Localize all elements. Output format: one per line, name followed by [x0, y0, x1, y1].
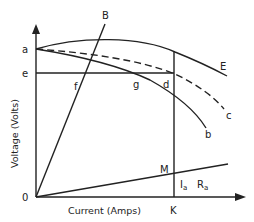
- field-resistance-line-B: [36, 24, 105, 197]
- curve-b: [36, 49, 206, 128]
- label-M: M: [160, 164, 169, 175]
- curve-E: [36, 40, 227, 76]
- label-Ia: Ia: [180, 179, 187, 192]
- label-d: d: [163, 79, 169, 90]
- label-a: a: [22, 44, 28, 55]
- label-g: g: [133, 79, 139, 90]
- label-Ra: Ra: [197, 179, 208, 192]
- y-axis-label: Voltage (Volts): [9, 99, 20, 168]
- label-c: c: [226, 110, 232, 121]
- label-b: b: [205, 129, 211, 140]
- label-K: K: [170, 205, 177, 216]
- label-origin: 0: [22, 192, 28, 203]
- label-B: B: [102, 10, 109, 21]
- y-axis-arrow-icon: [32, 24, 40, 34]
- x-axis-arrow-icon: [235, 193, 246, 201]
- label-f: f: [74, 81, 78, 92]
- characteristic-diagram: a e 0 B E c b d g f M K Ia Ra Current (A…: [0, 0, 254, 222]
- label-E: E: [220, 61, 226, 72]
- curve-c-dashed: [36, 49, 224, 109]
- label-e: e: [22, 68, 28, 79]
- x-axis-label: Current (Amps): [68, 205, 141, 216]
